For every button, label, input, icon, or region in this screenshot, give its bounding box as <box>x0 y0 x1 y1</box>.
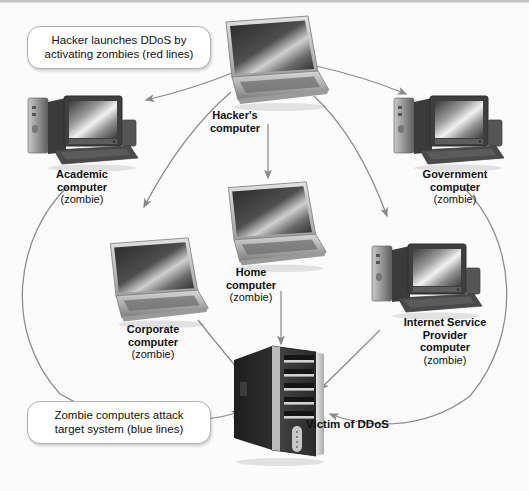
label-isp-line1: Internet Service <box>370 316 520 329</box>
callout-red-line2: activating zombies (red lines) <box>45 48 194 60</box>
label-academic-line1: Academic <box>12 168 152 181</box>
label-academic-role: (zombie) <box>12 193 152 206</box>
label-hacker-computer: Hacker's computer <box>180 109 290 134</box>
label-isp-computer: Internet Service Provider computer (zomb… <box>370 316 520 366</box>
label-government-line2: computer <box>385 181 525 194</box>
label-victim-of-ddos: Victim of DDoS <box>306 418 446 431</box>
label-home-computer: Home computer (zombie) <box>196 266 306 304</box>
label-academic-line2: computer <box>12 181 152 194</box>
label-academic-computer: Academic computer (zombie) <box>12 168 152 206</box>
callout-red-lines: Hacker launches DDoS by activating zombi… <box>27 26 211 69</box>
label-hacker-line2: computer <box>180 122 290 135</box>
label-isp-role: (zombie) <box>370 354 520 367</box>
callout-blue-line2: target system (blue lines) <box>55 423 183 435</box>
label-corporate-line2: computer <box>78 336 228 349</box>
callout-blue-line1: Zombie computers attack <box>54 409 183 421</box>
label-home-role: (zombie) <box>196 291 306 304</box>
label-government-role: (zombie) <box>385 193 525 206</box>
callout-blue-lines: Zombie computers attack target system (b… <box>27 401 211 444</box>
device-hacker-laptop <box>214 14 334 114</box>
label-government-line1: Government <box>385 168 525 181</box>
device-isp-desktop <box>366 240 491 322</box>
diagram-canvas: Hacker launches DDoS by activating zombi… <box>0 0 529 491</box>
device-government-desktop <box>388 92 513 174</box>
label-corporate-computer: Corporate computer (zombie) <box>78 323 228 361</box>
label-corporate-line1: Corporate <box>78 323 228 336</box>
callout-red-line1: Hacker launches DDoS by <box>52 34 187 46</box>
label-isp-line3: computer <box>370 341 520 354</box>
label-government-computer: Government computer (zombie) <box>385 168 525 206</box>
label-corporate-role: (zombie) <box>78 348 228 361</box>
label-home-line2: computer <box>196 279 306 292</box>
device-academic-desktop <box>22 92 147 174</box>
label-isp-line2: Provider <box>370 329 520 342</box>
device-home-laptop <box>214 180 334 275</box>
label-hacker-line1: Hacker's <box>180 109 290 122</box>
label-home-line1: Home <box>196 266 306 279</box>
device-victim-tower <box>230 338 340 478</box>
